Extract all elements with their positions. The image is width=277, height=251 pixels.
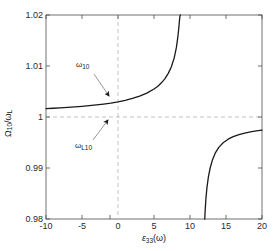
figure-container: -10 -5 0 5 10 15 20 0.98 0.99 1 1.01 1.0…: [0, 0, 277, 251]
annotation-omega-L10-subscript: L10: [81, 144, 92, 151]
y-tick-label-1: 0.99: [2, 163, 43, 173]
x-axis-title: ε33(ω): [142, 233, 166, 244]
y-tick-label-3: 1.01: [2, 61, 43, 71]
annotation-omega-10: ω10: [76, 60, 89, 70]
x-axis-title-tail: (ω): [153, 233, 166, 243]
y-axis-title-subscript: 10: [6, 123, 13, 130]
y-axis-title-mid: /ω: [3, 113, 13, 123]
y-tick-label-4: 1.02: [2, 10, 43, 20]
annotation-omega-L10: ωL10: [75, 141, 92, 151]
x-tick-label-6: 20: [257, 221, 267, 231]
x-tick-label-1: -5: [78, 221, 86, 231]
y-axis-title: Ω10/ωL: [3, 95, 14, 151]
y-axis-title-subscript-2: L: [6, 110, 13, 114]
y-tick-label-0: 0.98: [2, 214, 43, 224]
annotation-omega-10-subscript: 10: [82, 63, 89, 70]
y-axis-title-symbol: Ω: [3, 130, 13, 137]
x-tick-label-5: 15: [221, 221, 231, 231]
x-tick-label-2: 0: [115, 221, 120, 231]
x-tick-label-3: 5: [151, 221, 156, 231]
x-tick-label-4: 10: [185, 221, 195, 231]
